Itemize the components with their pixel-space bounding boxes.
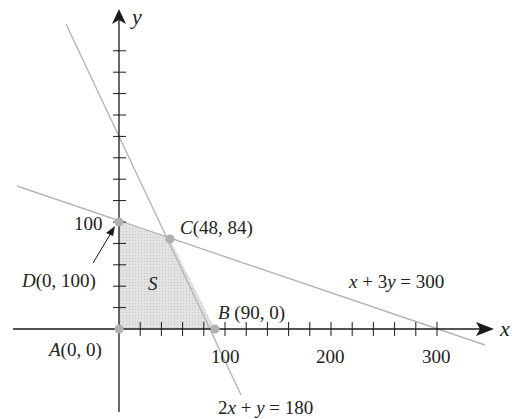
x-tick-label-100: 100 xyxy=(211,347,240,366)
y-axis-label: y xyxy=(132,6,142,28)
vertex-d xyxy=(115,218,124,227)
x-tick-label-200: 200 xyxy=(316,347,345,366)
vertex-b xyxy=(211,325,220,334)
vertex-label-c: C(48, 84) xyxy=(180,218,253,237)
x-axis-label: x xyxy=(500,318,510,340)
equation-label-x-3y-300: x + 3y = 300 xyxy=(349,272,444,291)
equation-label-2x-y-180: 2x + y = 180 xyxy=(218,398,313,417)
vertex-a xyxy=(115,325,124,334)
vertex-label-d: D(0, 100) xyxy=(22,271,96,290)
x-tick-label-300: 300 xyxy=(422,347,451,366)
y-axis xyxy=(112,9,126,412)
y-tick-label-100: 100 xyxy=(74,214,103,233)
vertex-label-b: B (90, 0) xyxy=(218,303,285,322)
vertex-c xyxy=(166,235,175,244)
vertex-label-a: A(0, 0) xyxy=(49,340,102,359)
region-label-s: S xyxy=(148,274,158,293)
